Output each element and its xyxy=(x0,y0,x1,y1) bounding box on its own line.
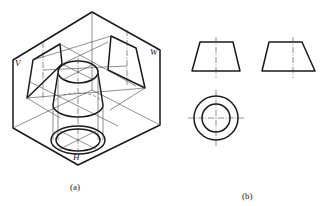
projector-line xyxy=(43,66,127,70)
projector-line xyxy=(110,88,145,110)
front-view-trapezoid xyxy=(192,42,240,71)
h-plane-label: H xyxy=(72,152,80,162)
v-plane-trapezoid xyxy=(27,44,62,98)
figure-a: V W H (a) xyxy=(13,12,160,192)
frustum-right-edge xyxy=(98,73,103,105)
figure-a-caption: (a) xyxy=(70,182,80,192)
figure-b-caption: (b) xyxy=(242,191,253,201)
projector-line xyxy=(33,36,111,60)
projector-line xyxy=(30,82,118,126)
v-plane-label: V xyxy=(15,58,22,68)
drawing-canvas: V W H (a) (b) xyxy=(0,0,324,206)
side-view-trapezoid xyxy=(262,42,315,71)
projector-line xyxy=(62,42,108,64)
figure-b: (b) xyxy=(188,37,315,201)
w-plane-trapezoid xyxy=(108,36,145,88)
frustum-left-edge xyxy=(53,73,58,105)
